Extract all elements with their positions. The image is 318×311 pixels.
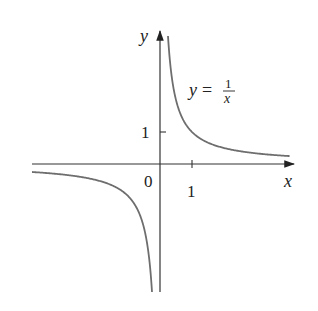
- equation-lhs: y: [187, 80, 197, 100]
- x-tick-label-1: 1: [187, 182, 196, 201]
- y-axis-label: y: [138, 26, 148, 46]
- hyperbola-graph: y x 0 1 1 y = 1 x: [0, 0, 318, 311]
- equation-numerator: 1: [225, 76, 232, 91]
- x-axis-label: x: [283, 171, 292, 191]
- y-tick-label-1: 1: [141, 123, 150, 142]
- function-label: y = 1 x: [187, 76, 235, 106]
- origin-label: 0: [144, 172, 153, 191]
- equation-denominator: x: [223, 91, 231, 106]
- curve-negative-branch: [32, 172, 152, 292]
- equation-equals: =: [202, 80, 212, 100]
